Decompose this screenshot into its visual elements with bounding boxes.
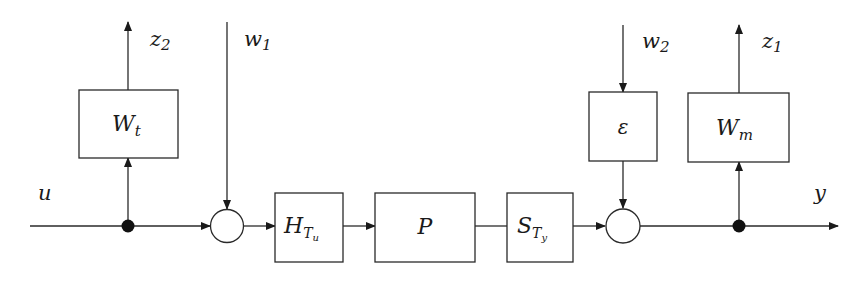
signal-z2-label: z2 xyxy=(149,27,171,54)
summing-junction-1 xyxy=(211,210,244,243)
block-diagram: Wt HTu P STy ε Wm u y z2 w1 w2 z1 xyxy=(0,0,863,281)
signal-u-label: u xyxy=(38,181,52,205)
signal-y-label: y xyxy=(813,181,827,205)
block-H: HTu xyxy=(275,193,343,262)
block-S: STy xyxy=(507,193,573,262)
block-P-label: P xyxy=(417,214,434,239)
summing-junction-2 xyxy=(606,209,640,243)
block-epsilon: ε xyxy=(589,92,657,161)
block-Wt: Wt xyxy=(79,90,178,158)
signal-w1-label: w1 xyxy=(244,27,272,54)
signal-z1-label: z1 xyxy=(761,29,783,56)
block-Wm: Wm xyxy=(688,93,789,162)
branch-node-y xyxy=(733,220,746,233)
branch-node-u xyxy=(122,220,135,233)
signal-w2-label: w2 xyxy=(642,29,670,56)
block-epsilon-label: ε xyxy=(618,115,629,139)
block-P: P xyxy=(375,193,475,262)
